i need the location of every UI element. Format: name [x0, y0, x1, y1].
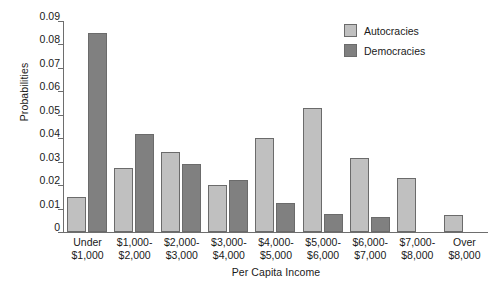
bar — [182, 164, 201, 232]
bar — [371, 217, 390, 232]
bar — [88, 33, 107, 232]
bar — [350, 158, 369, 232]
legend-item: Democracies — [344, 42, 425, 59]
bar — [67, 197, 86, 232]
y-axis-tick-label: 0.08 — [22, 34, 60, 44]
y-axis-tick-label: 0.03 — [22, 152, 60, 162]
y-axis-tick-label: 0 — [22, 222, 60, 232]
legend-swatch-icon — [344, 44, 357, 57]
y-axis-tick-mark — [58, 185, 63, 186]
y-axis-tick-labels: 00.010.020.030.040.050.060.070.080.09 — [22, 16, 60, 232]
y-axis-tick-label: 0.06 — [22, 81, 60, 91]
y-axis-tick-mark — [58, 162, 63, 163]
legend-swatch-icon — [344, 24, 357, 37]
bar — [397, 178, 416, 232]
x-axis-title: Per Capita Income — [64, 266, 488, 278]
y-axis-tick-mark — [58, 209, 63, 210]
bar-group — [300, 21, 347, 232]
bar — [276, 203, 295, 232]
x-axis-tick-labels: Under$1,000$1,000-$2,000$2,000-$3,000$3,… — [64, 236, 488, 266]
legend-item: Autocracies — [344, 22, 425, 39]
bar-group — [64, 21, 111, 232]
bar-group — [111, 21, 158, 232]
bar-group — [252, 21, 299, 232]
y-axis-tick-label: 0.07 — [22, 58, 60, 68]
bar — [161, 152, 180, 232]
bar — [303, 108, 322, 232]
y-axis-tick-label: 0.04 — [22, 128, 60, 138]
chart-legend: AutocraciesDemocracies — [344, 22, 425, 62]
x-axis-line — [58, 232, 488, 233]
bar — [255, 138, 274, 232]
bar — [324, 214, 343, 232]
y-axis-tick-mark — [58, 115, 63, 116]
y-axis-tick-mark — [58, 68, 63, 69]
y-axis-tick-mark — [58, 138, 63, 139]
bar — [114, 168, 133, 232]
y-axis-tick-label: 0.02 — [22, 175, 60, 185]
legend-label: Autocracies — [364, 25, 419, 37]
y-axis-tick-label: 0.05 — [22, 105, 60, 115]
y-axis-tick-mark — [58, 21, 63, 22]
bar-chart: Probabilities 00.010.020.030.040.050.060… — [0, 0, 499, 291]
bar — [444, 215, 463, 232]
bar — [229, 180, 248, 232]
bar — [208, 185, 227, 232]
y-axis-tick-label: 0.01 — [22, 199, 60, 209]
y-axis-tick-mark — [58, 91, 63, 92]
y-axis-tick-mark — [58, 232, 63, 233]
legend-label: Democracies — [364, 45, 425, 57]
bar — [135, 134, 154, 232]
y-axis-tick-label: 0.09 — [22, 11, 60, 21]
x-axis-tick-label: Over$8,000 — [436, 236, 492, 261]
bar-group — [205, 21, 252, 232]
y-axis-tick-mark — [58, 44, 63, 45]
bar-group — [158, 21, 205, 232]
bar-group — [441, 21, 488, 232]
